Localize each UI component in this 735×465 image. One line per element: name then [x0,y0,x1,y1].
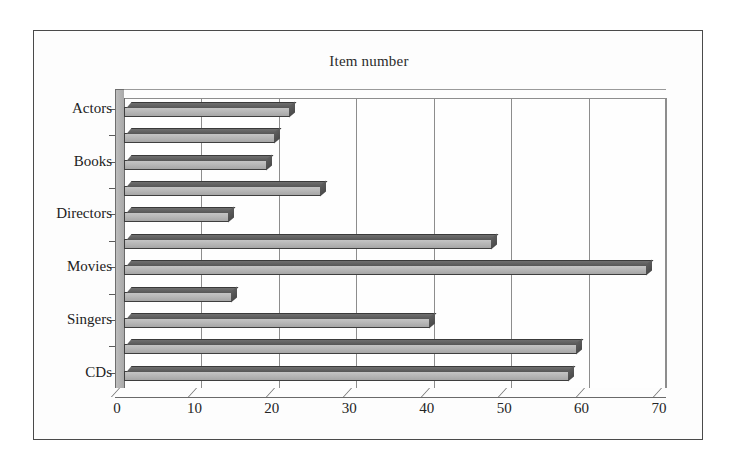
y-axis-label-books: Books [74,154,112,169]
bar-end-cap [320,181,326,197]
chart-frame: Item number 010203040506070 ActorsBooksD… [33,30,703,440]
bar-face [124,160,267,170]
y-axis-label-cds: CDs [85,365,112,380]
x-axis-label-20: 20 [242,400,302,417]
bar-row: CDs [124,366,569,381]
bar-row [124,128,275,143]
bar-top-shade [126,260,653,266]
bar-top-shade [126,366,575,372]
bar-top-shade [126,207,235,213]
plot-top-edge [124,89,666,98]
bar-end-cap [576,339,582,355]
bar-row: Movies [124,260,647,275]
y-axis-label-singers: Singers [67,312,112,327]
bar-top-shade [126,102,297,108]
bar-row: Actors [124,102,290,117]
y-tick [109,241,115,242]
bar-face [124,371,569,381]
bar-face [124,107,290,117]
y-axis-label-actors: Actors [72,101,112,116]
bar-face [124,344,577,354]
bar-face [124,186,321,196]
bar-top-shade [126,234,498,240]
bar-top-shade [126,181,327,187]
gridline-70 [666,98,667,388]
bar-series: ActorsBooksDirectorsMoviesSingersCDs [124,98,666,388]
x-axis-label-70: 70 [629,400,689,417]
x-axis-label-0: 0 [87,400,147,417]
plot-left-wall [115,89,124,388]
bar-row [124,181,321,196]
y-axis-label-movies: Movies [67,259,112,274]
y-axis-label-directors: Directors [56,206,112,221]
bar-face [124,239,492,249]
bar-row: Singers [124,313,430,328]
bar-top-shade [126,128,281,134]
bar-face [124,292,232,302]
bar-top-shade [126,313,436,319]
bar-face [124,212,229,222]
bar-end-cap [289,101,295,117]
chart-title: Item number [34,53,704,70]
bar-face [124,265,647,275]
bar-top-shade [126,155,273,161]
bar-top-shade [126,339,583,345]
y-tick [109,188,115,189]
x-axis-label-40: 40 [397,400,457,417]
bar-face [124,318,430,328]
y-tick [109,346,115,347]
bar-top-shade [126,287,238,293]
x-axis-label-30: 30 [319,400,379,417]
y-tick [109,294,115,295]
x-axis-label-60: 60 [552,400,612,417]
bar-face [124,133,275,143]
bar-row [124,339,577,354]
x-axis-label-50: 50 [474,400,534,417]
bar-row [124,287,232,302]
bar-row [124,234,492,249]
plot-area: 010203040506070 ActorsBooksDirectorsMovi… [124,98,666,388]
bar-row: Books [124,155,267,170]
x-axis-label-10: 10 [164,400,224,417]
bar-end-cap [274,128,280,144]
y-tick [109,135,115,136]
bar-row: Directors [124,207,229,222]
x-axis-base [115,388,666,398]
